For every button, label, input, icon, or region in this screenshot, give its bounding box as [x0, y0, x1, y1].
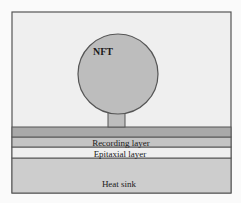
nft-label: NFT [93, 46, 113, 57]
recording-layer-label: Recording layer [92, 138, 150, 148]
nft-disk [78, 34, 158, 114]
epitaxial-layer-label: Epitaxial layer [94, 149, 147, 159]
nft-heat-assisted-recording-diagram: NFT Recording layer Epitaxial layer Heat… [0, 0, 241, 203]
overcoat-layer [12, 127, 231, 137]
heat-sink-label: Heat sink [102, 179, 137, 189]
